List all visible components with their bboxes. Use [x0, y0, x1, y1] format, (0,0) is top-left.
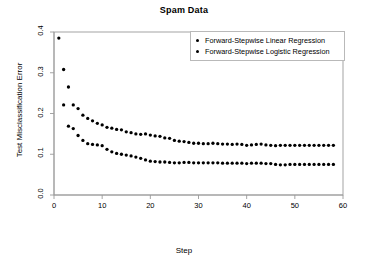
data-point: [110, 127, 113, 130]
legend-item-label: Forward-Stepwise Logistic Regression: [205, 47, 330, 56]
data-point: [279, 163, 282, 166]
series-2: [62, 103, 335, 166]
data-point: [144, 132, 147, 135]
data-point: [293, 163, 296, 166]
x-axis-tick-label: 20: [140, 201, 160, 210]
data-point: [293, 144, 296, 147]
legend-item: Forward-Stepwise Linear Regression: [196, 35, 337, 46]
data-point: [62, 103, 65, 106]
data-point: [115, 152, 118, 155]
chart-figure: Spam Data Test Misclassification Error S…: [0, 0, 368, 280]
data-point: [317, 144, 320, 147]
chart-legend: Forward-Stepwise Linear Regression Forwa…: [190, 31, 345, 61]
data-point: [72, 127, 75, 130]
legend-marker-icon: [196, 50, 199, 53]
data-point: [125, 130, 128, 133]
data-point: [81, 113, 84, 116]
x-axis-tick-label: 60: [333, 201, 353, 210]
data-point: [240, 143, 243, 146]
data-point: [101, 123, 104, 126]
data-point: [86, 142, 89, 145]
data-point: [235, 162, 238, 165]
data-point: [211, 161, 214, 164]
data-point: [308, 144, 311, 147]
data-point: [105, 126, 108, 129]
data-point: [221, 142, 224, 145]
data-point: [202, 161, 205, 164]
data-point: [163, 160, 166, 163]
y-axis-tick-label: 0.3: [32, 67, 48, 76]
data-point: [173, 139, 176, 142]
data-point: [144, 158, 147, 161]
data-point: [327, 144, 330, 147]
data-point: [303, 144, 306, 147]
data-point: [259, 162, 262, 165]
y-axis-tick-label: 0.4: [32, 26, 48, 35]
x-axis-tick-label: 40: [237, 201, 257, 210]
x-axis-tick-label: 0: [44, 201, 64, 210]
x-axis-tick-label: 10: [92, 201, 112, 210]
data-point: [202, 142, 205, 145]
data-point: [259, 142, 262, 145]
data-point: [250, 143, 253, 146]
y-axis-tick-label: 0.1: [32, 148, 48, 157]
data-point: [91, 119, 94, 122]
data-point: [134, 132, 137, 135]
data-point: [62, 68, 65, 71]
data-point: [298, 163, 301, 166]
data-point: [303, 163, 306, 166]
data-point: [332, 163, 335, 166]
data-point: [226, 142, 229, 145]
data-point: [192, 142, 195, 145]
data-point: [96, 122, 99, 125]
data-point: [332, 144, 335, 147]
data-point: [274, 144, 277, 147]
data-point: [67, 85, 70, 88]
data-point: [245, 162, 248, 165]
data-point: [86, 117, 89, 120]
data-point: [192, 161, 195, 164]
data-point: [182, 161, 185, 164]
data-point: [226, 162, 229, 165]
data-point: [255, 143, 258, 146]
data-point: [312, 163, 315, 166]
data-point: [110, 150, 113, 153]
data-point: [322, 144, 325, 147]
data-point: [187, 161, 190, 164]
data-point: [284, 163, 287, 166]
data-point: [129, 131, 132, 134]
data-point: [115, 128, 118, 131]
data-point: [269, 162, 272, 165]
data-point: [125, 153, 128, 156]
legend-marker-icon: [196, 39, 199, 42]
data-point: [178, 140, 181, 143]
data-point: [154, 134, 157, 137]
data-point: [216, 142, 219, 145]
data-point: [120, 153, 123, 156]
data-point: [240, 162, 243, 165]
data-point: [134, 155, 137, 158]
data-point: [178, 161, 181, 164]
data-point: [206, 142, 209, 145]
data-point: [312, 144, 315, 147]
data-point: [120, 128, 123, 131]
data-point: [91, 143, 94, 146]
data-point: [317, 163, 320, 166]
data-point: [327, 163, 330, 166]
data-point: [149, 160, 152, 163]
data-point: [245, 144, 248, 147]
data-point: [322, 163, 325, 166]
data-point: [158, 135, 161, 138]
data-point: [139, 133, 142, 136]
legend-item-label: Forward-Stepwise Linear Regression: [205, 36, 325, 45]
data-point: [197, 142, 200, 145]
data-point: [206, 161, 209, 164]
data-point: [76, 134, 79, 137]
data-point: [67, 124, 70, 127]
data-point: [187, 141, 190, 144]
data-point: [264, 143, 267, 146]
data-point: [216, 161, 219, 164]
data-point: [163, 136, 166, 139]
data-point: [154, 160, 157, 163]
data-point: [279, 144, 282, 147]
